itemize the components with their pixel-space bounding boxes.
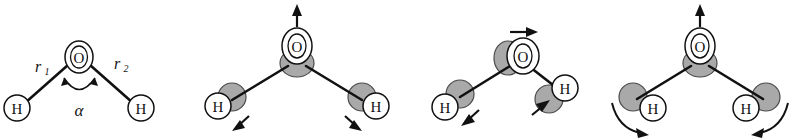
atom-hydrogen-left: H	[432, 94, 458, 120]
atom-label-hydrogen-left: H	[648, 101, 659, 117]
label-bond-angle-alpha: α	[75, 101, 85, 120]
label-r2-symbol: r	[114, 55, 121, 72]
label-r1-subscript: 1	[45, 66, 50, 77]
displacement-arrow-hydrogen-left-downleft	[232, 116, 249, 131]
displacement-arrow-hydrogen-left-downleft	[461, 110, 479, 126]
atom-label-hydrogen-left: H	[440, 100, 451, 116]
atom-label-hydrogen-left: H	[12, 101, 23, 117]
atom-label-oxygen: O	[292, 39, 303, 55]
bond-o-h-left	[232, 66, 288, 100]
bond-o-h-right	[306, 66, 362, 100]
panel-bending-mode: O H H	[600, 0, 801, 139]
atom-label-oxygen: O	[74, 50, 85, 66]
atom-label-oxygen: O	[695, 39, 706, 55]
atom-hydrogen-left: H	[640, 95, 666, 121]
bond-o-h-right	[709, 66, 763, 99]
label-bond-length-r2: r 2	[114, 55, 129, 74]
displacement-arrow-oxygen-up	[695, 4, 705, 27]
atom-oxygen: O	[507, 38, 539, 74]
atom-hydrogen-left: H	[205, 93, 231, 119]
atom-label-hydrogen-right: H	[371, 99, 382, 115]
atom-label-hydrogen-right: H	[560, 81, 571, 97]
panel-asymmetric-stretch: O H H	[398, 0, 600, 139]
atom-hydrogen-left: H	[4, 95, 30, 121]
label-r2-subscript: 2	[124, 63, 129, 74]
atom-oxygen: O	[685, 28, 715, 64]
atom-oxygen: O	[65, 41, 93, 73]
atom-label-hydrogen-right: H	[741, 101, 752, 117]
atom-label-hydrogen-right: H	[136, 101, 147, 117]
atom-hydrogen-right: H	[363, 93, 389, 119]
displacement-arrow-oxygen-right	[510, 27, 538, 37]
panel-symmetric-stretch: O H H	[196, 0, 398, 139]
atom-hydrogen-right: H	[733, 95, 759, 121]
atom-hydrogen-right: H	[552, 75, 578, 101]
bond-o-h-left	[637, 66, 691, 99]
water-vibrational-modes-figure: O H H r 1 r 2 α	[0, 0, 801, 139]
atom-label-oxygen: O	[518, 49, 529, 65]
displacement-arrow-hydrogen-right-downright	[345, 116, 362, 131]
label-bond-length-r1: r 1	[35, 58, 50, 77]
atom-hydrogen-right: H	[128, 95, 154, 121]
displacement-arrow-oxygen-up	[292, 4, 302, 27]
panel-equilibrium-geometry: O H H r 1 r 2 α	[0, 0, 196, 139]
atom-oxygen: O	[282, 28, 312, 64]
label-r1-symbol: r	[35, 58, 42, 75]
atom-label-hydrogen-left: H	[213, 99, 224, 115]
